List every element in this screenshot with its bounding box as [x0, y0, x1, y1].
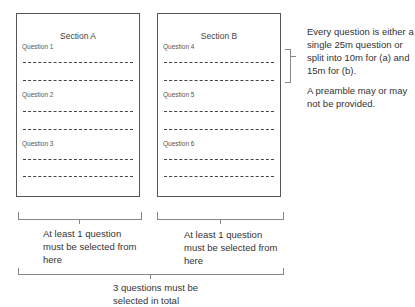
- question-format-brace: [285, 49, 291, 83]
- answer-line: [164, 176, 274, 177]
- answer-line: [164, 80, 274, 81]
- preamble-note: A preamble may or may not be provided.: [307, 84, 415, 110]
- question-1-label: Question 1: [22, 43, 53, 50]
- question-2-label: Question 2: [22, 91, 53, 98]
- answer-line: [23, 176, 133, 177]
- answer-line: [164, 111, 274, 112]
- total-constraint: 3 questions must be selected in total: [113, 281, 208, 307]
- question-5-label: Question 5: [163, 91, 194, 98]
- answer-line: [23, 62, 133, 63]
- question-6-label: Question 6: [163, 140, 194, 147]
- section-a-box: Section A Question 1 Question 2 Question…: [16, 13, 140, 197]
- section-a-title: Section A: [17, 31, 139, 41]
- answer-line: [23, 80, 133, 81]
- brace-tick: [79, 219, 80, 224]
- total-brace: [18, 268, 284, 275]
- answer-line: [164, 129, 274, 130]
- section-b-title: Section B: [158, 31, 280, 41]
- answer-line: [23, 129, 133, 130]
- section-b-box: Section B Question 4 Question 5 Question…: [157, 13, 281, 197]
- answer-line: [23, 111, 133, 112]
- question-4-label: Question 4: [163, 43, 194, 50]
- question-format-note: Every question is either a single 25m qu…: [307, 25, 415, 77]
- question-3-label: Question 3: [22, 140, 53, 147]
- brace-tick: [220, 219, 221, 224]
- brace-tick: [150, 274, 151, 279]
- answer-line: [164, 62, 274, 63]
- section-b-constraint: At least 1 question must be selected fro…: [184, 228, 284, 267]
- brace-tick: [291, 56, 296, 57]
- section-a-constraint: At least 1 question must be selected fro…: [43, 227, 143, 266]
- section-a-brace: [18, 212, 142, 220]
- answer-line: [164, 159, 274, 160]
- answer-line: [23, 159, 133, 160]
